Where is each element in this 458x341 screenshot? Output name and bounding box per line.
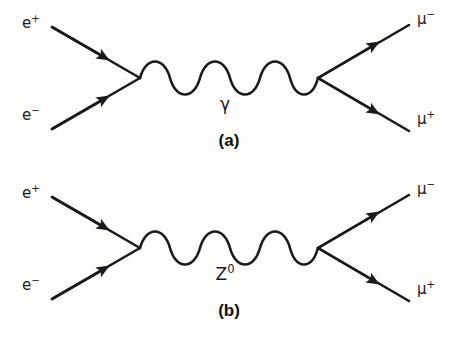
feynman-diagram-a: e+ e− μ− μ+ γ (a) bbox=[0, 0, 458, 170]
caption-b: (b) bbox=[0, 301, 458, 321]
feynman-diagram-figure: e+ e− μ− μ+ γ (a) bbox=[0, 0, 458, 341]
boson-propagator-wave bbox=[140, 232, 318, 265]
label-propagator-photon: γ bbox=[0, 96, 458, 113]
label-mu-plus: μ+ bbox=[417, 112, 435, 127]
label-mu-minus: μ− bbox=[417, 182, 435, 197]
label-propagator-z-boson: Z0 bbox=[0, 266, 458, 283]
label-e-plus: e+ bbox=[22, 16, 40, 31]
arrowhead-e-plus-in bbox=[52, 27, 104, 57]
caption-a: (a) bbox=[0, 131, 458, 151]
arrowhead-mu-minus-out bbox=[318, 215, 374, 248]
label-e-plus: e+ bbox=[22, 186, 40, 201]
feynman-diagram-b: e+ e− μ− μ+ Z0 (b) bbox=[0, 170, 458, 340]
arrowhead-mu-minus-out bbox=[318, 45, 374, 78]
label-mu-minus: μ− bbox=[417, 12, 435, 27]
boson-propagator-wave bbox=[140, 62, 318, 95]
arrowhead-e-plus-in bbox=[52, 197, 104, 227]
label-mu-plus: μ+ bbox=[417, 282, 435, 297]
